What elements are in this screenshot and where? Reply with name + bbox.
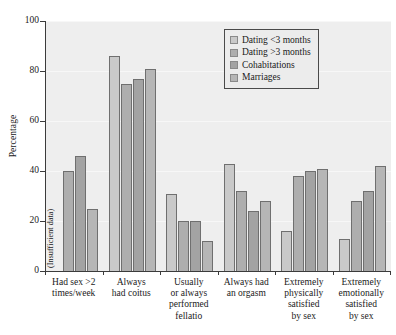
x-axis-label-line: or always xyxy=(160,288,218,299)
x-axis-label-line: satisfied xyxy=(275,299,333,310)
legend-label: Dating <3 months xyxy=(242,36,311,46)
y-tick-label: 60 xyxy=(0,116,39,126)
bar xyxy=(317,169,328,272)
bar-group xyxy=(334,21,392,271)
legend-label: Dating >3 months xyxy=(242,48,311,58)
x-axis-label-line: Extremely xyxy=(275,277,333,288)
x-tick-mark xyxy=(275,271,276,275)
x-tick-mark xyxy=(333,271,334,275)
bar xyxy=(351,201,362,271)
bar xyxy=(109,56,120,271)
bar xyxy=(178,221,189,271)
y-tick-label: 20 xyxy=(0,216,39,226)
legend-label: Cohabitations xyxy=(242,61,295,71)
x-axis-label: Extremelyphysicallysatisfiedby sex xyxy=(275,277,333,322)
bar xyxy=(63,171,74,271)
x-axis-label-line: physically xyxy=(275,288,333,299)
bar xyxy=(236,191,247,271)
x-axis-label-line: had coitus xyxy=(103,288,161,299)
x-tick-mark xyxy=(160,271,161,275)
x-tick-mark xyxy=(103,271,104,275)
legend-swatch-icon xyxy=(230,74,238,82)
x-tick-mark xyxy=(45,271,46,275)
legend[interactable]: Dating <3 monthsDating >3 monthsCohabita… xyxy=(224,29,319,89)
y-axis-title: Percentage xyxy=(8,76,18,196)
y-tick-label: 0 xyxy=(0,266,39,276)
bar xyxy=(202,241,213,271)
bar xyxy=(293,176,304,271)
bar xyxy=(339,239,350,272)
x-axis-label-line: Always xyxy=(103,277,161,288)
x-axis-label-line: by sex xyxy=(275,311,333,322)
x-axis-label-line: Usually xyxy=(160,277,218,288)
y-tick-label: 80 xyxy=(0,66,39,76)
x-axis-label-line: performed xyxy=(160,299,218,310)
bar xyxy=(260,201,271,271)
bar xyxy=(363,191,374,271)
bar xyxy=(145,69,156,272)
x-axis-label-line: times/week xyxy=(45,288,103,299)
bar xyxy=(248,211,259,271)
legend-item[interactable]: Marriages xyxy=(230,72,311,85)
x-axis-label-line: satisfied xyxy=(333,299,391,310)
plot-area: (Insufficient data) xyxy=(45,21,391,272)
insufficient-data-annotation: (Insufficient data) xyxy=(46,209,55,268)
legend-swatch-icon xyxy=(230,36,238,44)
bar xyxy=(375,166,386,271)
legend-item[interactable]: Dating <3 months xyxy=(230,34,311,47)
x-axis-label-line: an orgasm xyxy=(218,288,276,299)
bar-chart: Percentage 020406080100 (Insufficient da… xyxy=(0,0,396,335)
bar xyxy=(190,221,201,271)
legend-item[interactable]: Cohabitations xyxy=(230,59,311,72)
x-tick-mark xyxy=(218,271,219,275)
bar xyxy=(224,164,235,272)
x-axis-label: Had sex >2times/week xyxy=(45,277,103,299)
legend-swatch-icon xyxy=(230,49,238,57)
bar-group xyxy=(161,21,219,271)
x-axis-label-line: by sex xyxy=(333,311,391,322)
y-tick-label: 40 xyxy=(0,166,39,176)
legend-item[interactable]: Dating >3 months xyxy=(230,47,311,60)
legend-swatch-icon xyxy=(230,61,238,69)
x-axis-label-line: Had sex >2 xyxy=(45,277,103,288)
bar xyxy=(75,156,86,271)
bar xyxy=(121,84,132,272)
x-axis-label-line: fellatio xyxy=(160,311,218,322)
bar xyxy=(281,231,292,271)
x-axis-label: Extremelyemotionallysatisfiedby sex xyxy=(333,277,391,322)
x-axis-label: Usuallyor alwaysperformedfellatio xyxy=(160,277,218,322)
x-tick-mark xyxy=(390,271,391,275)
x-axis-label: Alwayshad coitus xyxy=(103,277,161,299)
x-axis-label-line: emotionally xyxy=(333,288,391,299)
bar xyxy=(87,209,98,272)
x-axis-label: Always hadan orgasm xyxy=(218,277,276,299)
bar xyxy=(166,194,177,272)
y-tick-label: 100 xyxy=(0,16,39,26)
x-axis-label-line: Extremely xyxy=(333,277,391,288)
bar xyxy=(133,79,144,272)
x-axis-label-line: Always had xyxy=(218,277,276,288)
legend-label: Marriages xyxy=(242,73,281,83)
bar xyxy=(305,171,316,271)
bar-group xyxy=(104,21,162,271)
